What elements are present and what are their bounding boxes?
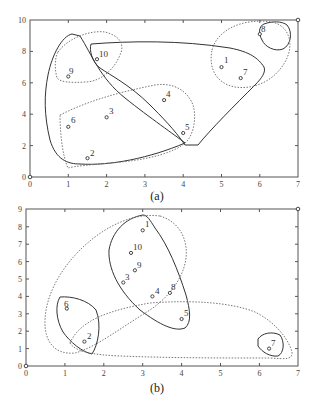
data-point-2 [83, 340, 86, 343]
point-label: 6 [64, 299, 69, 309]
plot-b-dotted-cluster-large [45, 215, 186, 353]
plot-b-points [65, 229, 271, 351]
y-tick-label: 4 [22, 110, 26, 119]
y-tick-label: 2 [18, 327, 22, 336]
y-tick-label: 6 [18, 258, 22, 267]
data-point-1 [141, 229, 144, 232]
plot-a-points [67, 33, 262, 160]
plot-b-point-labels: 1 2 3 4 5 6 7 8 9 10 [64, 219, 276, 348]
y-tick-label: 8 [18, 223, 22, 232]
point-label: 7 [271, 338, 276, 348]
point-label: 2 [87, 331, 92, 341]
x-tick-label: 2 [102, 369, 106, 378]
x-tick-label: 4 [181, 180, 185, 189]
origin-marker [28, 175, 32, 179]
point-label: 2 [90, 148, 95, 158]
x-tick-label: 3 [141, 369, 145, 378]
data-point-5 [180, 317, 183, 320]
plot-a: 0 1 2 3 4 5 6 7 0 2 4 6 8 10 [18, 16, 300, 203]
plot-a-point-labels: 1 2 3 4 5 6 7 8 9 10 [69, 24, 266, 158]
origin-marker [24, 364, 28, 368]
caption-a: (a) [150, 189, 163, 203]
y-tick-label: 2 [22, 142, 26, 151]
data-point-6 [67, 125, 70, 128]
data-point-4 [151, 295, 154, 298]
point-label: 1 [224, 55, 229, 65]
figure: 0 1 2 3 4 5 6 7 0 2 4 6 8 10 [0, 0, 315, 408]
y-tick-label: 5 [18, 275, 22, 284]
point-label: 10 [133, 242, 143, 252]
plot-b-x-ticks [65, 209, 260, 366]
x-tick-label: 0 [28, 180, 32, 189]
plot-b-dotted-cluster-bottom [70, 302, 292, 359]
data-point-3 [105, 116, 108, 119]
y-tick-label: 0 [18, 362, 22, 371]
data-point-2 [86, 157, 89, 160]
y-tick-label: 7 [18, 240, 22, 249]
point-label: 5 [185, 122, 190, 132]
plot-b-frame [26, 209, 298, 366]
point-label: 3 [109, 106, 114, 116]
point-label: 6 [71, 115, 76, 125]
plot-b-solid-cluster-center [109, 215, 190, 329]
y-tick-label: 4 [18, 292, 22, 301]
y-tick-label: 3 [18, 310, 22, 319]
plot-b-y-ticks [26, 227, 298, 349]
x-tick-label: 6 [257, 369, 261, 378]
point-label: 9 [137, 260, 142, 270]
point-label: 3 [125, 272, 130, 282]
corner-marker [296, 18, 300, 22]
x-tick-label: 4 [180, 369, 184, 378]
point-label: 5 [184, 308, 189, 318]
y-tick-label: 6 [22, 79, 26, 88]
y-tick-label: 10 [18, 16, 26, 25]
point-label: 9 [69, 66, 74, 76]
x-tick-label: 7 [296, 369, 300, 378]
point-label: 8 [171, 282, 176, 292]
plot-b: 0 1 2 3 4 5 6 7 0 1 2 3 4 5 6 7 8 9 [18, 205, 300, 395]
plot-a-dotted-cluster-9-10 [55, 32, 122, 83]
x-tick-label: 3 [143, 180, 147, 189]
corner-marker [296, 207, 300, 211]
point-label: 1 [145, 219, 150, 229]
point-label: 10 [99, 49, 109, 59]
x-tick-label: 5 [220, 180, 224, 189]
point-label: 4 [166, 89, 171, 99]
caption-b: (b) [150, 381, 164, 395]
y-tick-label: 8 [22, 47, 26, 56]
x-tick-label: 7 [296, 180, 300, 189]
x-tick-label: 1 [63, 369, 67, 378]
x-tick-label: 6 [258, 180, 262, 189]
y-tick-label: 0 [22, 173, 26, 182]
x-tick-label: 5 [219, 369, 223, 378]
y-tick-label: 1 [18, 345, 22, 354]
plot-a-dotted-cluster-middle [60, 84, 195, 168]
point-label: 4 [155, 286, 160, 296]
y-tick-label: 9 [18, 205, 22, 214]
x-tick-label: 1 [66, 180, 70, 189]
x-tick-label: 0 [24, 369, 28, 378]
data-point-1 [220, 66, 223, 69]
x-tick-label: 2 [105, 180, 109, 189]
data-point-7 [239, 77, 242, 80]
point-label: 8 [261, 24, 266, 34]
point-label: 7 [243, 67, 248, 77]
